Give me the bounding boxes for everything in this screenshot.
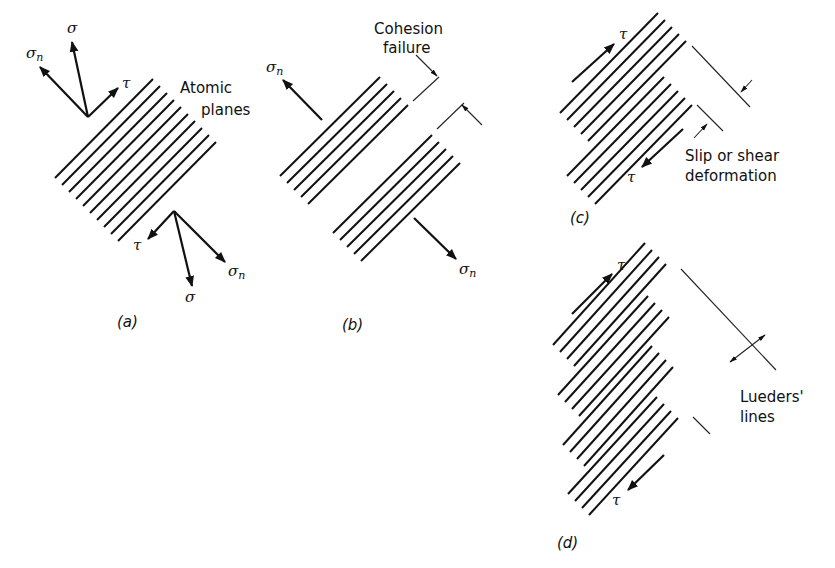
sigma-arrow xyxy=(174,211,192,286)
tau-label: τ xyxy=(122,74,131,92)
dimension-arrow xyxy=(694,124,707,138)
atomic-plane-line xyxy=(347,149,446,247)
extension-line xyxy=(693,417,710,434)
sigma-n-arrow-down xyxy=(414,218,456,259)
stress-deformation-diagram: σ σn τ τ σ σn Atomic planes (a) σn σn xyxy=(0,0,835,568)
tau-arrow xyxy=(148,211,174,239)
cohesion-failure-label-1: Cohesion xyxy=(374,20,443,38)
dimension-arrow xyxy=(741,80,752,92)
panel-b: σn σn Cohesion failure (b) xyxy=(266,20,482,334)
atomic-plane-line xyxy=(361,163,460,261)
sigma-n-label: σn xyxy=(459,260,476,280)
extension-line xyxy=(681,269,776,370)
atomic-plane-line xyxy=(574,264,666,366)
atomic-planes-label-1: Atomic xyxy=(180,79,232,97)
extension-line xyxy=(437,103,464,129)
sigma-n-label: σn xyxy=(26,44,43,64)
tau-arrow-up xyxy=(572,274,612,314)
panel-a: σ σn τ τ σ σn Atomic planes (a) xyxy=(26,19,251,331)
tau-arrow xyxy=(88,88,118,117)
stress-arrows-top-a: σ σn τ xyxy=(26,19,131,117)
slip-label-1: Slip or shear xyxy=(685,147,780,165)
caption-a: (a) xyxy=(117,313,138,331)
tau-label: τ xyxy=(627,168,636,186)
caption-c: (c) xyxy=(570,209,590,227)
tau-label: τ xyxy=(612,491,621,509)
dimension-arrow xyxy=(416,55,437,76)
lueders-label-2: lines xyxy=(740,408,775,426)
sigma-n-arrow-up xyxy=(283,80,322,120)
sigma-n-label: σn xyxy=(266,58,283,78)
caption-b: (b) xyxy=(342,316,363,334)
dimension-arrow xyxy=(462,105,482,125)
slip-dimension xyxy=(692,46,752,138)
atomic-planes-b-lower xyxy=(333,135,460,261)
atomic-plane-line xyxy=(589,418,678,515)
lueders-planes-d xyxy=(553,243,678,515)
sigma-label: σ xyxy=(185,288,196,306)
atomic-plane-line xyxy=(582,411,671,508)
panel-d: τ τ Lueders' lines (d) xyxy=(553,243,804,552)
tau-label: τ xyxy=(619,25,628,43)
tau-arrow-down xyxy=(628,455,664,490)
lueders-label-1: Lueders' xyxy=(740,388,804,406)
atomic-planes-label-2: planes xyxy=(201,101,251,119)
sigma-n-arrow xyxy=(40,67,88,117)
atomic-plane-line xyxy=(308,105,408,204)
extension-line xyxy=(697,105,723,131)
atomic-plane-line xyxy=(575,404,664,501)
atomic-plane-line xyxy=(568,397,657,494)
tau-label: τ xyxy=(617,256,626,274)
cohesion-failure-dimension xyxy=(413,55,482,129)
sigma-n-arrow xyxy=(174,211,225,262)
caption-d: (d) xyxy=(557,534,578,552)
extension-line xyxy=(692,46,750,107)
extension-line xyxy=(413,77,439,101)
sigma-label: σ xyxy=(67,19,78,37)
cohesion-failure-label-2: failure xyxy=(383,39,430,57)
tau-label: τ xyxy=(133,236,142,254)
atomic-plane-line xyxy=(354,156,453,254)
stress-arrows-bottom-a: τ σ σn xyxy=(133,211,245,306)
panel-c: τ τ Slip or shear deformation (c) xyxy=(560,13,780,227)
atomic-planes-a xyxy=(55,79,216,241)
slip-label-2: deformation xyxy=(685,167,777,185)
sigma-n-label: σn xyxy=(228,262,245,282)
sigma-arrow xyxy=(72,42,88,117)
